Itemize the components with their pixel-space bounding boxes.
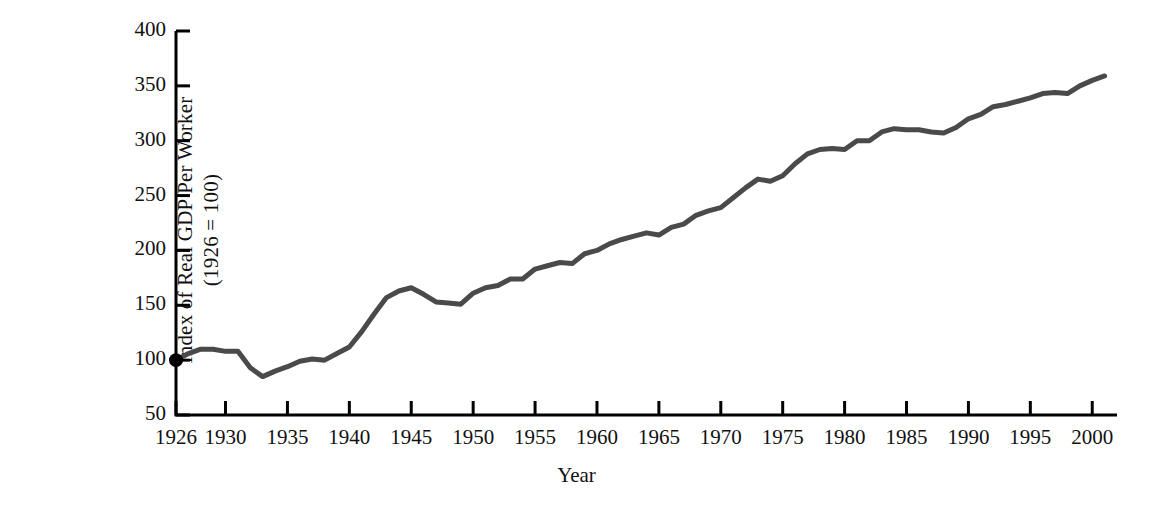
y-tick-label: 350 (110, 72, 166, 97)
x-tick-label: 1965 (624, 425, 694, 450)
x-tick-label: 1960 (562, 425, 632, 450)
y-tick-label: 250 (110, 182, 166, 207)
y-tick-label: 300 (110, 127, 166, 152)
y-tick-label: 200 (110, 236, 166, 261)
y-tick-label: 50 (110, 401, 166, 426)
y-tick-label: 100 (110, 346, 166, 371)
x-tick-label: 2000 (1057, 425, 1127, 450)
start-point-marker (169, 353, 183, 367)
figure-root: Index of Real GDP Per Worker (1926 = 100… (0, 0, 1153, 524)
y-tick-label: 400 (110, 17, 166, 42)
x-tick-label: 1990 (933, 425, 1003, 450)
x-tick-label: 1975 (748, 425, 818, 450)
x-tick-label: 1940 (314, 425, 384, 450)
x-tick-label: 1980 (810, 425, 880, 450)
x-tick-label: 1945 (376, 425, 446, 450)
x-tick-label: 1985 (872, 425, 942, 450)
data-series-line (176, 76, 1105, 377)
x-tick-label: 1935 (252, 425, 322, 450)
x-tick-label: 1995 (995, 425, 1065, 450)
x-tick-label: 1970 (686, 425, 756, 450)
x-tick-label: 1950 (438, 425, 508, 450)
x-tick-label: 1955 (500, 425, 570, 450)
x-tick-label: 1930 (191, 425, 261, 450)
y-tick-label: 150 (110, 291, 166, 316)
